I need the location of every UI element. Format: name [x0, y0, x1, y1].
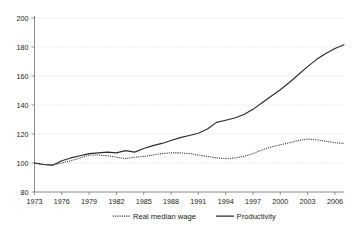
x-tick-label: 2003 — [300, 197, 316, 206]
line-chart: 80100120140160180200 1973197619791982198… — [0, 0, 356, 231]
x-axis-ticks: 1973197619791982198519881991199419972000… — [27, 192, 343, 206]
x-tick-label: 1997 — [245, 197, 261, 206]
legend-label-real-median-wage: Real median wage — [133, 212, 196, 221]
x-tick-label: 1973 — [27, 197, 43, 206]
y-axis-ticks: 80100120140160180200 — [17, 14, 35, 197]
x-tick-label: 1991 — [190, 197, 206, 206]
chart-container: 80100120140160180200 1973197619791982198… — [0, 0, 356, 231]
chart-legend: Real median wageProductivity — [113, 212, 276, 221]
x-tick-label: 2000 — [272, 197, 288, 206]
x-tick-label: 1979 — [81, 197, 97, 206]
y-tick-label: 140 — [17, 101, 29, 110]
y-tick-label: 180 — [17, 43, 29, 52]
gridlines — [35, 18, 345, 163]
x-tick-label: 2006 — [327, 197, 343, 206]
series-line-real-median-wage — [35, 139, 345, 165]
y-tick-label: 80 — [21, 188, 29, 197]
y-tick-label: 120 — [17, 130, 29, 139]
x-tick-label: 1976 — [54, 197, 70, 206]
legend-label-productivity: Productivity — [237, 212, 276, 221]
x-tick-label: 1994 — [218, 197, 234, 206]
y-tick-label: 160 — [17, 72, 29, 81]
x-tick-label: 1988 — [163, 197, 179, 206]
x-tick-label: 1982 — [108, 197, 124, 206]
y-tick-label: 100 — [17, 159, 29, 168]
x-tick-label: 1985 — [136, 197, 152, 206]
y-tick-label: 200 — [17, 14, 29, 23]
